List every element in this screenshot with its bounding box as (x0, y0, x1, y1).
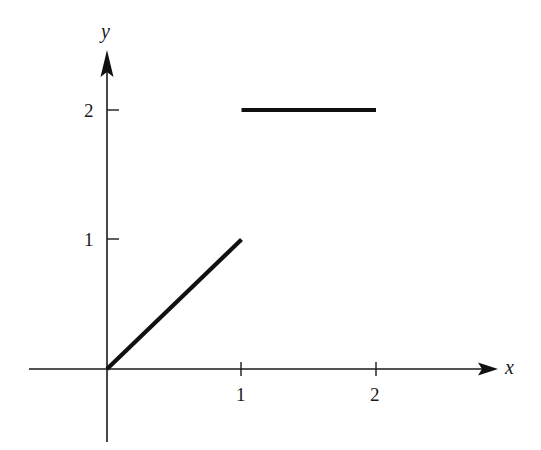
series-layer (107, 110, 376, 369)
y-axis-label: y (101, 21, 110, 41)
data-segment-1 (107, 240, 242, 370)
x-tick-label-1: 1 (236, 385, 246, 404)
y-tick-label-2: 2 (84, 101, 94, 120)
x-axis-label: x (505, 357, 514, 377)
y-tick-label-1: 1 (84, 230, 94, 249)
x-tick-label-2: 2 (370, 385, 380, 404)
chart-canvas (0, 0, 541, 450)
